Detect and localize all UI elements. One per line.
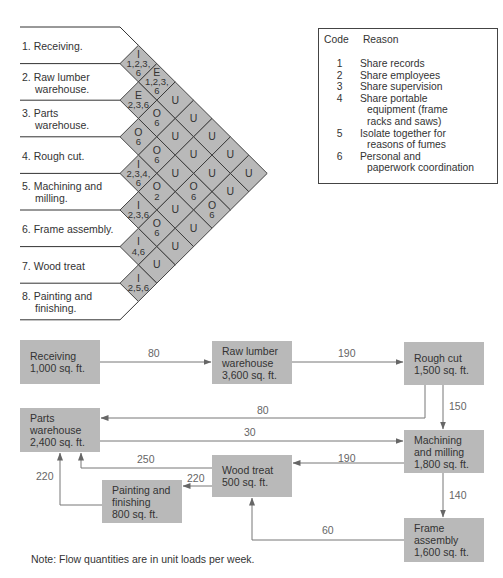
flow-qty-parts-to-machining: 30 — [244, 426, 256, 438]
box-raw-lumber-name: Raw lumber — [222, 345, 282, 357]
flow-qty-raw-to-rough: 190 — [338, 347, 356, 359]
box-rough-cut: Rough cut 1,500 sq. ft. — [404, 342, 484, 385]
box-machining-name-2: and milling — [414, 446, 474, 458]
box-raw-lumber-name-2: warehouse — [222, 357, 282, 369]
flow-qty-machining-to-wood: 190 — [338, 452, 356, 464]
box-painting-name: Painting and — [112, 484, 172, 496]
flow-qty-rough-to-parts: 80 — [257, 404, 269, 416]
box-receiving: Receiving 1,000 sq. ft. — [20, 340, 100, 384]
box-raw-lumber-area: 3,600 sq. ft. — [222, 369, 282, 381]
box-rough-cut-area: 1,500 sq. ft. — [414, 364, 474, 376]
box-machining-name: Machining — [414, 434, 474, 446]
box-parts-warehouse: Parts warehouse 2,400 sq. ft. — [20, 408, 100, 452]
flow-qty-wood-to-painting: 220 — [187, 472, 205, 484]
box-frame-area: 1,600 sq. ft. — [414, 546, 474, 558]
box-painting-and-finishing: Painting and finishing 800 sq. ft. — [102, 480, 182, 523]
box-frame-assembly: Frame assembly 1,600 sq. ft. — [404, 518, 484, 562]
box-machining-area: 1,800 sq. ft. — [414, 458, 474, 470]
flow-qty-painting-to-parts: 220 — [36, 470, 54, 482]
flow-qty-machining-to-frame: 140 — [449, 489, 467, 501]
flow-qty-receiving-to-raw: 80 — [148, 347, 160, 359]
box-parts-name: Parts — [30, 412, 90, 424]
box-raw-lumber-warehouse: Raw lumber warehouse 3,600 sq. ft. — [212, 341, 292, 384]
flow-units-note: Note: Flow quantities are in unit loads … — [31, 553, 255, 565]
box-frame-name: Frame — [414, 522, 474, 534]
flow-qty-frame-to-wood: 60 — [322, 524, 334, 536]
box-wood-treat-area: 500 sq. ft. — [222, 476, 282, 488]
box-rough-cut-name: Rough cut — [414, 352, 474, 364]
box-frame-name-2: assembly — [414, 534, 474, 546]
flow-qty-rough-to-machining: 150 — [449, 400, 467, 412]
box-wood-treat: Wood treat 500 sq. ft. — [212, 455, 292, 497]
box-wood-treat-name: Wood treat — [222, 464, 282, 476]
box-receiving-area: 1,000 sq. ft. — [30, 362, 90, 374]
box-painting-area: 800 sq. ft. — [112, 508, 172, 520]
flow-qty-wood-to-parts: 250 — [137, 453, 155, 465]
box-painting-name-2: finishing — [112, 496, 172, 508]
box-parts-name-2: warehouse — [30, 424, 90, 436]
box-parts-area: 2,400 sq. ft. — [30, 436, 90, 448]
box-receiving-name: Receiving — [30, 350, 90, 362]
box-machining-and-milling: Machining and milling 1,800 sq. ft. — [404, 430, 484, 473]
